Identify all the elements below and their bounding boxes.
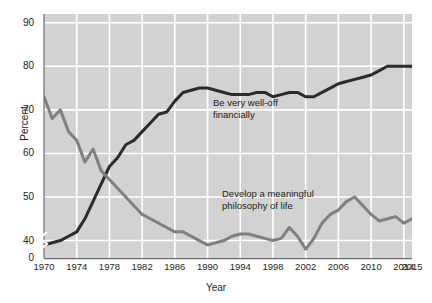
series-label-philosophy: Develop a meaningful philosophy of life bbox=[222, 188, 314, 211]
series-line-0 bbox=[44, 66, 412, 245]
gridlines bbox=[44, 14, 412, 258]
plot-area bbox=[44, 14, 412, 258]
y-tick-label: 90 bbox=[0, 18, 34, 28]
series-label-wealth: Be very well-off financially bbox=[213, 97, 278, 120]
x-tick-label: 2015 bbox=[392, 262, 432, 272]
y-tick-label: 70 bbox=[0, 105, 34, 115]
chart-container: Percent Year 0405060708090 1970197419781… bbox=[0, 0, 432, 303]
y-tick-label: 60 bbox=[0, 148, 34, 158]
x-axis-title: Year bbox=[176, 282, 256, 293]
y-tick-label: 50 bbox=[0, 192, 34, 202]
plot-svg bbox=[44, 14, 412, 258]
series-paths bbox=[44, 66, 412, 249]
y-tick-label: 40 bbox=[0, 236, 34, 246]
y-axis-title: Percent bbox=[19, 94, 30, 154]
y-tick-label: 80 bbox=[0, 61, 34, 71]
